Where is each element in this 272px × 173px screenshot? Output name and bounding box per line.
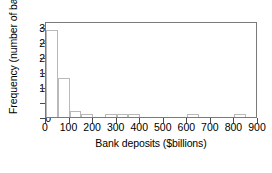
histogram-bar — [81, 114, 93, 117]
x-tick-mark — [233, 118, 234, 123]
x-tick-mark — [139, 118, 140, 123]
histogram-figure: Frequency (number of banks) 051015202530… — [0, 0, 272, 173]
histogram-bar — [105, 114, 117, 117]
histogram-bar — [128, 114, 140, 117]
x-tick-label: 900 — [240, 121, 272, 133]
histogram-bar — [58, 78, 70, 117]
x-tick-mark — [210, 118, 211, 123]
histogram-bar — [46, 30, 58, 117]
x-tick-mark — [92, 118, 93, 123]
x-tick-mark — [45, 118, 46, 123]
x-tick-mark — [163, 118, 164, 123]
y-axis-title: Frequency (number of banks) — [6, 0, 20, 114]
x-tick-mark — [257, 118, 258, 123]
x-axis-title: Bank deposits ($billions) — [45, 137, 257, 150]
caption-strip — [8, 160, 266, 169]
x-tick-mark — [116, 118, 117, 123]
x-tick-mark — [69, 118, 70, 123]
histogram-bar — [187, 114, 199, 117]
plot-area — [45, 22, 257, 118]
x-tick-mark — [186, 118, 187, 123]
histogram-bar — [234, 114, 246, 117]
histogram-bar — [117, 114, 129, 117]
histogram-bar — [70, 111, 82, 117]
